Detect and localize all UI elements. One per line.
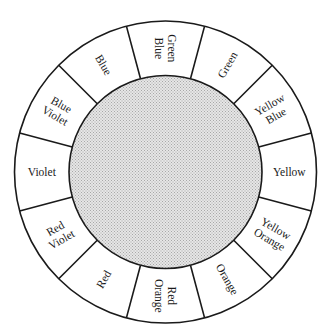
color-wheel-diagram: YellowYellowOrangeOrangeRedOrangeRedRedV…: [0, 0, 326, 335]
segment-label-line: Orange: [152, 279, 165, 313]
segment-label-violet: Violet: [28, 166, 57, 178]
segment-label-green-blue: GreenBlue: [153, 34, 178, 62]
inner-disc: [69, 76, 262, 269]
segment-label-yellow: Yellow: [273, 166, 306, 178]
segment-label-line: Violet: [28, 166, 57, 178]
segment-label-line: Green: [166, 34, 178, 62]
segment-label-line: Blue: [153, 37, 165, 59]
segment-label-line: Red: [166, 287, 178, 306]
segment-label-line: Yellow: [273, 166, 306, 178]
